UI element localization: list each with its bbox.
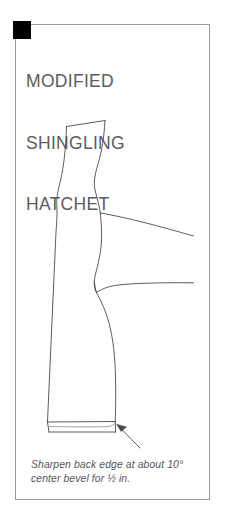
handle-lower-edge (97, 283, 194, 293)
blade-top-edge (67, 121, 106, 127)
hatchet-profile-line-drawing (15, 24, 210, 500)
bevel-line (48, 422, 115, 427)
figure-caption-line-2: center bevel for ½ in. (31, 472, 199, 486)
bevel-callout-arrow-head (117, 425, 127, 432)
figure-caption: Sharpen back edge at about 10° center be… (31, 458, 199, 486)
handle-upper-edge (100, 213, 193, 236)
hatchet-drawing-svg (15, 24, 210, 500)
diagram-page: MODIFIED SHINGLING HATCHET (0, 0, 225, 516)
blade-left-outline (48, 127, 67, 423)
figure-caption-line-1: Sharpen back edge at about 10° (31, 458, 199, 472)
blade-cutting-edge (48, 422, 116, 423)
blade-right-upper-outline (94, 121, 105, 214)
blade-heel-corner (48, 422, 50, 432)
blade-right-lower-outline (94, 213, 115, 422)
